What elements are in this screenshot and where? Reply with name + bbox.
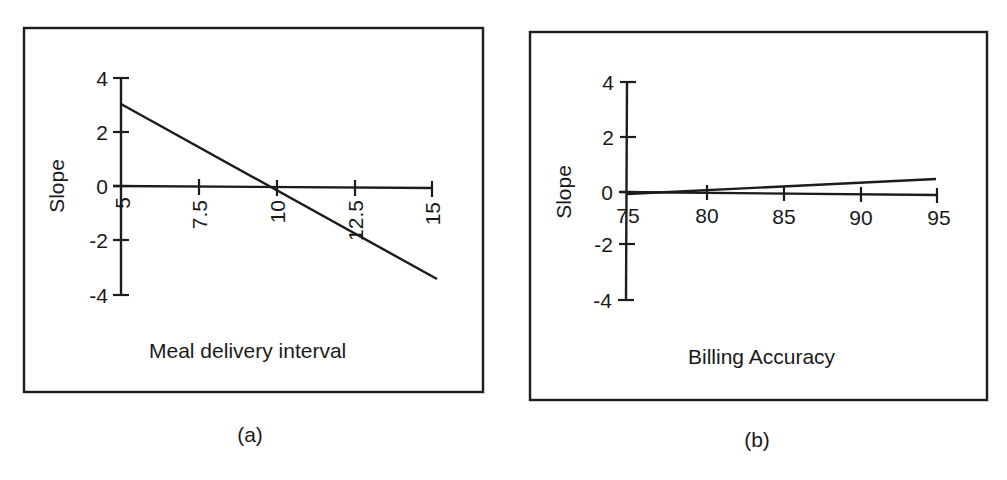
panel-a-x-tick-label: 5 [111,197,134,209]
chart-panel-a: 4 2 0 -2 -4 Slope 5 7.5 10 12.5 15 Meal … [24,28,483,392]
panel-b-x-tick-label: 85 [772,205,795,228]
panel-a-y-tick-label: -4 [89,284,108,307]
panel-b-y-tick-label: 2 [602,126,614,149]
panel-a-x-tick-label: 15 [421,202,444,225]
panel-a-x-axis-title: Meal delivery interval [149,339,346,362]
panel-b-x-axis-title: Billing Accuracy [688,345,836,368]
panel-b-y-tick-label: 0 [601,181,613,204]
panel-a-x-tick-label: 7.5 [188,200,211,229]
panel-b-x-tick-label: 80 [695,204,718,227]
panel-a-y-tick-label: 2 [96,121,108,144]
panel-a-caption: (a) [237,423,263,446]
panel-b-caption: (b) [744,428,770,451]
panel-b-y-tick-label: -4 [593,289,612,312]
panel-a-y-tick-label: -2 [89,229,108,252]
panel-a-slope-line [121,104,437,279]
panel-a-x-tick-label: 10 [266,200,289,223]
panel-a-frame [24,28,483,392]
panel-b-slope-line [627,179,936,194]
chart-panel-b: 4 2 0 -2 -4 Slope 75 80 85 90 95 Billing… [530,32,987,400]
panel-b-y-axis-title: Slope [552,165,575,219]
panel-b-y-tick-label: -2 [594,233,613,256]
panel-a-y-tick-label: 0 [96,175,108,198]
panel-b-x-tick-label: 90 [849,206,872,229]
panel-b-x-tick-label: 95 [927,206,950,229]
panel-a-y-tick-label: 4 [96,67,108,90]
panel-b-x-tick-label: 75 [616,204,639,227]
panel-b-y-tick-label: 4 [602,71,614,94]
panel-a-y-axis-title: Slope [45,159,68,213]
